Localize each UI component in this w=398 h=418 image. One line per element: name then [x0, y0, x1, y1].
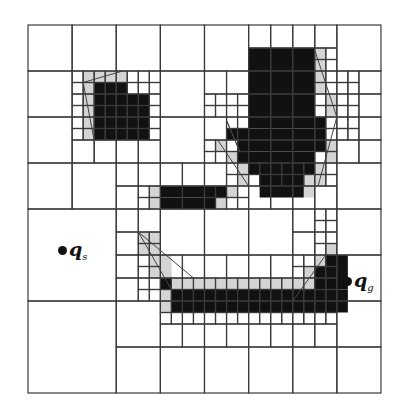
quadtree-cell [28, 25, 72, 71]
quadtree-cell [72, 25, 116, 71]
quadtree-cell [182, 313, 193, 325]
quadtree-cell [182, 324, 204, 347]
quadtree-cell [116, 255, 138, 278]
quadtree-cell [72, 83, 83, 95]
quadtree-cell [238, 106, 249, 118]
quadtree-cell [227, 324, 249, 347]
start-point-marker [58, 246, 67, 255]
quadtree-cell [293, 232, 315, 255]
quadtree-cell [227, 163, 238, 175]
quadtree-cell [160, 209, 204, 255]
quadtree-cell [204, 25, 248, 71]
quadtree-cell [138, 83, 149, 95]
goal-subscript: g [367, 282, 373, 293]
quadtree-cell [304, 255, 315, 267]
quadtree-cell [326, 163, 337, 175]
quadtree-cell [204, 152, 215, 164]
quadtree-cell [216, 313, 227, 325]
quadtree-cell [348, 106, 359, 118]
quadtree-cell [216, 94, 227, 106]
quadtree-cell [271, 313, 282, 325]
quadtree-cell [149, 106, 160, 118]
quadtree-cell [204, 71, 226, 94]
quadtree-cell [116, 301, 160, 347]
quadtree-cell [249, 175, 260, 187]
quadtree-cell [337, 25, 381, 71]
quadtree-cell [249, 209, 293, 255]
start-subscript: s [82, 251, 87, 262]
quadtree-cell [326, 313, 337, 325]
quadtree-cell [238, 186, 249, 198]
quadtree-cell [28, 71, 72, 117]
quadtree-cell [227, 198, 238, 210]
quadtree-cell [249, 324, 271, 347]
quadtree-cell [337, 94, 348, 106]
quadtree-cell [337, 140, 359, 163]
quadtree-cell [94, 140, 116, 163]
quadtree-cell [28, 301, 116, 393]
start-symbol: q [69, 238, 82, 260]
quadtree-cell [72, 94, 83, 106]
goal-label: qg [354, 271, 374, 293]
quadtree-cell [160, 71, 204, 117]
quadtree-cell [227, 313, 238, 325]
quadtree-cell [282, 313, 293, 325]
quadtree-cell [315, 94, 326, 106]
quadtree-cell [227, 255, 249, 278]
quadtree-cell [315, 106, 326, 118]
quadtree-cell [337, 83, 348, 95]
quadtree-cell [238, 313, 249, 325]
quadtree-cell [204, 94, 215, 106]
quadtree-cell [271, 25, 293, 48]
quadtree-cell [204, 313, 215, 325]
quadtree-cell [116, 209, 138, 232]
quadtree-cell [315, 244, 326, 256]
quadtree-cell [149, 71, 160, 83]
quadtree-cell [116, 140, 138, 163]
obstacle-block [238, 140, 326, 152]
quadtree-cell [193, 313, 204, 325]
quadtree-cell [348, 129, 359, 141]
quadtree-cell [116, 25, 160, 71]
quadtree-cell [138, 255, 149, 267]
quadtree-cell [182, 163, 204, 186]
quadtree-cell [138, 71, 149, 83]
quadtree-cell [216, 152, 227, 164]
quadtree-cell [315, 324, 337, 347]
quadtree-cell [72, 117, 83, 129]
inflated-cell [326, 244, 337, 256]
quadtree-cell [359, 117, 381, 140]
goal-point-marker [343, 277, 352, 286]
quadtree-cell [72, 106, 83, 118]
quadtree-cell [138, 140, 160, 163]
quadtree-cell [216, 106, 227, 118]
quadtree-cell [326, 48, 337, 60]
quadtree-cell [138, 163, 160, 186]
quadtree-cell [271, 324, 293, 347]
quadtree-cell [204, 209, 248, 255]
quadtree-cell [315, 152, 326, 164]
quadtree-cell [337, 117, 348, 129]
quadtree-cell [337, 106, 348, 118]
quadtree-cell [348, 83, 359, 95]
quadtree-cell [359, 94, 381, 117]
quadtree-cell [149, 83, 160, 95]
quadtree-cell [326, 60, 337, 72]
quadtree-cell [160, 163, 182, 186]
quadtree-cell [160, 347, 204, 393]
quadtree-cell [227, 94, 238, 106]
quadtree-cell [204, 106, 215, 118]
quadtree-cell [326, 221, 337, 233]
quadtree-cell [293, 267, 304, 279]
quadtree-cell [28, 117, 72, 163]
quadtree-diagram [0, 0, 398, 418]
quadtree-cell [160, 25, 204, 71]
obstacle-block [227, 129, 326, 141]
quadtree-cell [337, 209, 381, 255]
quadtree-cell [227, 106, 238, 118]
quadtree-cell [72, 140, 94, 163]
quadtree-cell [315, 25, 337, 48]
quadtree-cell [337, 163, 381, 209]
obstacle-block [160, 186, 226, 198]
inflated-cell [227, 186, 238, 198]
